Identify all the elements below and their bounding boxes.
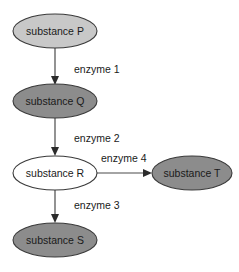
- node-substance-q[interactable]: substance Q: [13, 84, 97, 118]
- node-substance-s-label: substance S: [26, 234, 84, 246]
- node-substance-p-label: substance P: [26, 25, 84, 37]
- diagram-canvas: substance P substance Q substance R subs…: [0, 0, 239, 272]
- edge-label-enzyme-1: enzyme 1: [74, 63, 120, 75]
- edge-label-enzyme-4: enzyme 4: [101, 152, 147, 164]
- edge-r-to-s: [51, 190, 59, 223]
- node-substance-r-label: substance R: [26, 167, 85, 179]
- node-substance-t-label: substance T: [163, 167, 221, 179]
- edge-label-enzyme-2: enzyme 2: [74, 132, 120, 144]
- node-substance-q-label: substance Q: [26, 95, 85, 107]
- node-substance-r[interactable]: substance R: [13, 156, 97, 190]
- edge-r-to-t-arrowhead: [143, 169, 152, 177]
- node-substance-t[interactable]: substance T: [152, 156, 232, 190]
- edge-r-to-s-arrowhead: [51, 214, 59, 223]
- pathway-diagram: substance P substance Q substance R subs…: [0, 0, 239, 272]
- edge-q-to-r: [51, 118, 59, 156]
- node-substance-p[interactable]: substance P: [13, 14, 97, 48]
- edge-r-to-t: [97, 169, 152, 177]
- node-substance-s[interactable]: substance S: [13, 223, 97, 257]
- edge-q-to-r-arrowhead: [51, 147, 59, 156]
- edge-label-enzyme-3: enzyme 3: [74, 199, 120, 211]
- edge-p-to-q: [51, 48, 59, 85]
